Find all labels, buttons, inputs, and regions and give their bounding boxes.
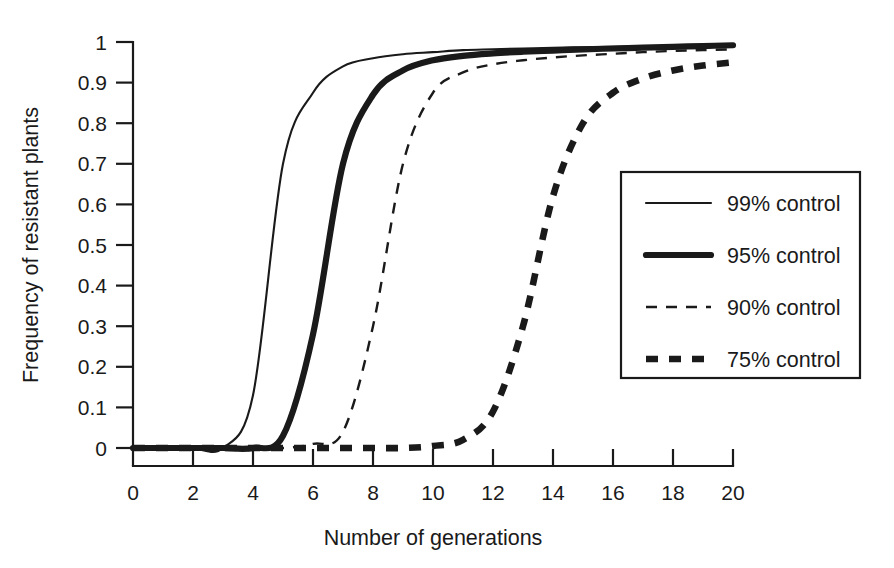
x-tick-label: 2 [187,481,199,504]
y-tick-label: 1 [95,31,107,54]
x-tick-labels: 02468101214161820 [127,481,745,504]
legend-label: 95% control [727,244,841,268]
x-tick-label: 12 [481,481,504,504]
y-tick-label: 0.7 [78,152,107,175]
x-axis-title: Number of generations [324,526,543,550]
y-tick-label: 0.9 [78,71,107,94]
x-tick-label: 10 [421,481,444,504]
y-tick-label: 0.3 [78,315,107,338]
y-tick-label: 0.1 [78,396,107,419]
legend-label: 90% control [727,296,841,320]
y-tick-marks [116,42,133,448]
x-tick-label: 16 [601,481,624,504]
x-tick-label: 6 [307,481,319,504]
line-chart: 00.10.20.30.40.50.60.70.80.91 0246810121… [0,0,894,568]
x-tick-label: 4 [247,481,259,504]
y-tick-labels: 00.10.20.30.40.50.60.70.80.91 [78,31,108,460]
y-tick-label: 0.6 [78,193,107,216]
legend: 99% control95% control90% control75% con… [621,172,860,378]
x-tick-marks [133,449,733,466]
y-tick-label: 0.5 [78,234,107,257]
x-tick-label: 0 [127,481,139,504]
x-tick-label: 18 [661,481,684,504]
x-tick-label: 20 [721,481,744,504]
x-tick-label: 8 [367,481,379,504]
y-tick-label: 0 [95,437,107,460]
legend-label: 99% control [727,192,841,216]
y-tick-label: 0.4 [78,274,108,297]
legend-label: 75% control [727,348,841,372]
y-tick-label: 0.2 [78,355,107,378]
x-tick-label: 14 [541,481,565,504]
y-axis-title: Frequency of resistant plants [19,107,43,383]
y-tick-label: 0.8 [78,112,107,135]
chart-figure: 00.10.20.30.40.50.60.70.80.91 0246810121… [0,0,894,568]
